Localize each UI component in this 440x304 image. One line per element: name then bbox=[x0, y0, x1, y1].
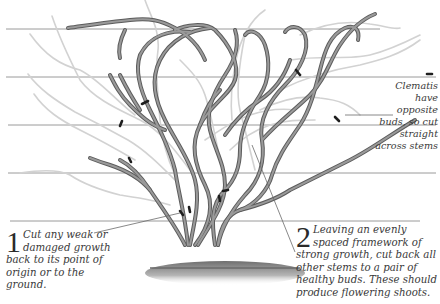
step-1-number: 1 bbox=[6, 230, 21, 254]
step-2-annotation: 2 Leaving an evenly spaced framework of … bbox=[296, 224, 438, 300]
kept-stems bbox=[68, 14, 415, 245]
step-1-text: Cut any weak or damaged growth back to i… bbox=[6, 229, 111, 290]
ground bbox=[145, 261, 305, 285]
cut-mark bbox=[129, 158, 131, 162]
cut-mark bbox=[189, 207, 190, 212]
cut-mark bbox=[335, 117, 339, 121]
step-1-annotation: 1 Cut any weak or damaged growth back to… bbox=[6, 229, 118, 292]
clematis-note: Clematis have opposite buds, so cut stra… bbox=[372, 80, 438, 152]
cut-mark bbox=[120, 121, 122, 126]
cut-mark bbox=[223, 190, 228, 191]
step-2-number: 2 bbox=[296, 225, 311, 249]
step-2-text: Leaving an evenly spaced framework of st… bbox=[296, 224, 437, 298]
cut-mark bbox=[219, 196, 220, 201]
